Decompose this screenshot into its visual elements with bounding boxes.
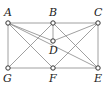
node-labels: ABCDGFE xyxy=(3,6,103,85)
node-F xyxy=(51,66,55,70)
edge-A-D xyxy=(8,23,53,41)
label-G: G xyxy=(3,72,12,85)
graph-diagram: ABCDGFE xyxy=(0,0,106,85)
label-C: C xyxy=(94,6,103,19)
node-D xyxy=(51,39,55,43)
label-E: E xyxy=(93,72,102,85)
label-D: D xyxy=(48,44,58,57)
node-C xyxy=(96,21,100,25)
node-G xyxy=(6,66,10,70)
node-A xyxy=(6,21,10,25)
node-B xyxy=(51,21,55,25)
node-E xyxy=(96,66,100,70)
label-B: B xyxy=(48,6,57,19)
edge-C-D xyxy=(53,23,98,41)
label-A: A xyxy=(3,6,12,19)
label-F: F xyxy=(48,72,57,85)
